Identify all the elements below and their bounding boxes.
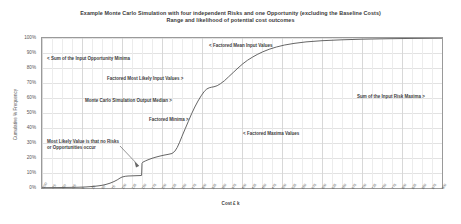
x-axis-tick: 450 — [261, 183, 267, 190]
y-axis-tick-labels: 0%10%20%30%40%50%60%70%80%90%100% — [0, 37, 39, 187]
y-axis-tick: 10% — [27, 170, 36, 175]
x-axis-tick: 675 — [351, 183, 357, 190]
x-axis-tick: 25 — [91, 185, 96, 190]
x-axis-tick: 800 — [401, 183, 407, 190]
chart-title: Example Monte Carlo Simulation with four… — [0, 10, 461, 17]
x-axis-tick: 525 — [291, 183, 297, 190]
x-axis-tick: 825 — [411, 183, 417, 190]
x-axis-tick: 550 — [301, 183, 307, 190]
y-axis-tick: 30% — [27, 140, 36, 145]
annotation-opportunity-minima: < Sum of the Input Opportunity Minima — [47, 56, 130, 62]
x-axis-tick: 850 — [421, 183, 427, 190]
x-axis-tick: 225 — [171, 183, 177, 190]
y-axis-tick: 20% — [27, 155, 36, 160]
annotation-most-likely-value: Most Likely Value is that no Risks or Op… — [47, 139, 121, 151]
x-axis-tick: 175 — [151, 183, 157, 190]
y-axis-tick: 60% — [27, 95, 36, 100]
x-axis-tick: 875 — [431, 183, 437, 190]
x-axis-tick: -25 — [71, 184, 77, 190]
x-axis-tick: 575 — [311, 183, 317, 190]
x-axis-tick: 200 — [161, 183, 167, 190]
x-axis-tick: 625 — [331, 183, 337, 190]
x-axis-tick: 275 — [191, 183, 197, 190]
x-axis-tick: 100 — [121, 183, 127, 190]
annotation-factored-mean: < Factored Mean Input Values — [209, 43, 272, 49]
x-axis-tick: 375 — [231, 183, 237, 190]
x-axis-tick: 150 — [141, 183, 147, 190]
x-axis-tick: 300 — [201, 183, 207, 190]
x-axis-tick: 350 — [221, 183, 227, 190]
chart-title-block: Example Monte Carlo Simulation with four… — [0, 10, 461, 25]
annotation-most-likely-input: Factored Most Likely Input Values > — [107, 76, 183, 82]
x-axis-tick: 400 — [241, 183, 247, 190]
x-axis-tick: 325 — [211, 183, 217, 190]
y-axis-title: Cumulative % Frequency — [13, 70, 18, 160]
x-axis-tick: 250 — [181, 183, 187, 190]
x-axis-tick: 75 — [111, 185, 116, 190]
y-axis-tick: 50% — [27, 110, 36, 115]
x-axis-tick: 50 — [101, 185, 106, 190]
x-axis-tick: 650 — [341, 183, 347, 190]
chart-container: Example Monte Carlo Simulation with four… — [0, 0, 461, 224]
y-axis-tick: 100% — [24, 35, 36, 40]
x-axis-tick: 900 — [441, 183, 447, 190]
x-axis-tick: 725 — [371, 183, 377, 190]
annotation-factored-maxima: < Factored Maxima Values — [243, 131, 299, 137]
y-axis-tick: 90% — [27, 50, 36, 55]
x-axis-tick: -50 — [61, 184, 67, 190]
x-axis-title: Cost £ k — [0, 201, 461, 206]
y-axis-tick: 0% — [29, 185, 36, 190]
x-axis-tick: 425 — [251, 183, 257, 190]
x-axis-tick: 775 — [391, 183, 397, 190]
y-axis-tick: 70% — [27, 80, 36, 85]
x-axis-tick: 700 — [361, 183, 367, 190]
x-axis-tick: -75 — [51, 184, 57, 190]
x-axis-tick: 500 — [281, 183, 287, 190]
y-axis-tick: 80% — [27, 65, 36, 70]
x-axis-tick: 475 — [271, 183, 277, 190]
chart-subtitle: Range and likelihood of potential cost o… — [0, 17, 461, 24]
annotation-output-median: Monte Carlo Simulation Output Median > — [85, 98, 172, 104]
x-axis-tick: 600 — [321, 183, 327, 190]
gridline-vertical — [442, 38, 443, 188]
x-axis-tick: 125 — [131, 183, 137, 190]
annotation-risk-maxima: Sum of the Input Risk Maxima > — [357, 94, 425, 100]
y-axis-tick: 40% — [27, 125, 36, 130]
annotation-factored-minima: Factored Minima > — [149, 117, 189, 123]
x-axis-tick: 750 — [381, 183, 387, 190]
